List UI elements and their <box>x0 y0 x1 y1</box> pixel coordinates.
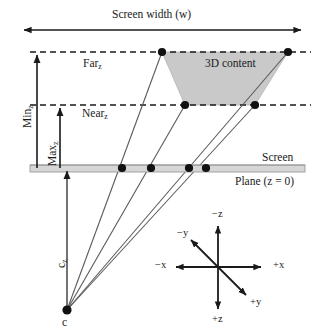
near-z-label: Nearz <box>82 108 108 120</box>
near-z-label-text: Near <box>82 107 104 119</box>
camera-point-label: c <box>62 317 67 329</box>
content-region-label: 3D content <box>205 58 256 70</box>
diagram-canvas <box>0 0 325 334</box>
screen-plane-bar <box>30 165 305 172</box>
axis-label-negative-y: −y <box>177 228 188 239</box>
min-z-label: Minz <box>22 105 34 128</box>
camera-height-label-sub: z <box>60 259 69 262</box>
far-z-label-text: Far <box>83 57 98 69</box>
plane-equation-label: Plane (z = 0) <box>235 176 294 188</box>
max-z-label-text: Max <box>46 145 58 166</box>
coordinate-axes-widget <box>176 226 261 309</box>
camera-origin-point <box>62 305 71 314</box>
screen-label: Screen <box>262 152 293 164</box>
far-z-label-sub: z <box>98 62 101 71</box>
axis-label-positive-x: +x <box>273 260 284 271</box>
far-z-label: Farz <box>83 58 102 70</box>
perspective-frustum-diagram: Screen width (w) Farz Nearz 3D content S… <box>0 0 325 334</box>
camera-height-label: cz <box>56 259 68 268</box>
axis-label-negative-x: −x <box>155 260 166 271</box>
axis-label-positive-z: +z <box>212 314 223 325</box>
max-z-label-sub: z <box>51 141 60 144</box>
axis-label-positive-y: +y <box>250 297 261 308</box>
camera-height-label-text: c <box>55 263 67 268</box>
axis-label-negative-z: −z <box>212 209 223 220</box>
screen-width-label: Screen width (w) <box>112 9 191 21</box>
min-z-label-text: Min <box>21 109 33 128</box>
min-z-label-sub: z <box>26 105 35 108</box>
max-z-label: Maxz <box>47 141 59 166</box>
near-z-label-sub: z <box>104 112 107 121</box>
